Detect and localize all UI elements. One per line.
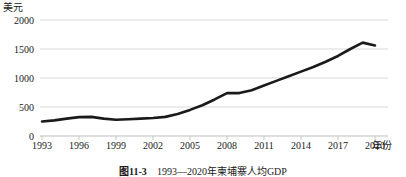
x-tick-label-1993: 1993: [22, 140, 62, 151]
figure-caption-text: 1993—2020年柬埔寨人均GDP: [157, 166, 287, 177]
x-tick-label-2005: 2005: [170, 140, 210, 151]
figure-caption: 图11-3 1993—2020年柬埔寨人均GDP: [0, 166, 406, 177]
x-tick-label-2017: 2017: [318, 140, 358, 151]
x-axis-unit-label: 年份: [372, 140, 392, 152]
x-tick-label-2011: 2011: [244, 140, 284, 151]
data-series-line-per-capita-gdp: [42, 43, 375, 122]
x-tick-label-2002: 2002: [133, 140, 173, 151]
figure-caption-spacer: [149, 166, 154, 177]
x-tick-label-1999: 1999: [96, 140, 136, 151]
gridlines: [40, 20, 388, 107]
figure-caption-number: 图11-3: [119, 166, 147, 177]
x-tick-label-2014: 2014: [281, 140, 321, 151]
x-tick-label-2008: 2008: [207, 140, 247, 151]
figure-container: 美元 2000 1500 1000 500 0 1993 1996 1999 2…: [0, 0, 406, 177]
x-tick-label-1996: 1996: [59, 140, 99, 151]
